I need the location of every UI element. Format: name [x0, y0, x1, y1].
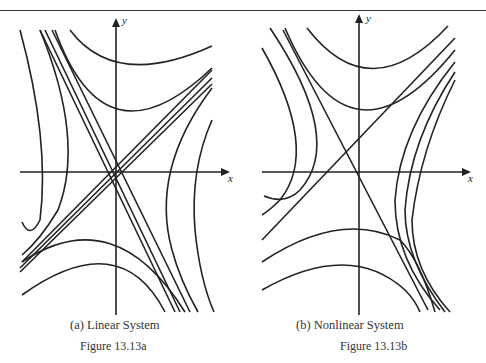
- phase-portraits: [0, 0, 486, 363]
- panel-a-diagram: [20, 18, 230, 315]
- x-axis-label-b: x: [468, 172, 473, 184]
- y-axis-label-a: y: [122, 14, 127, 26]
- x-axis-label-a: x: [228, 172, 233, 184]
- caption-b: (b) Nonlinear System: [296, 318, 404, 333]
- y-axis-label-b: y: [366, 12, 371, 24]
- figure-label-b: Figure 13.13b: [340, 339, 407, 354]
- panel-b-diagram: [262, 14, 471, 315]
- figure-label-a: Figure 13.13a: [80, 339, 147, 354]
- caption-a: (a) Linear System: [70, 318, 160, 333]
